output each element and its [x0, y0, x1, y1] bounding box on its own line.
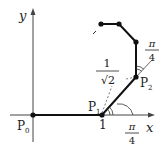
angle-top-numer: π — [148, 38, 156, 49]
y-axis-arrow-icon — [31, 8, 36, 15]
x-axis-label: x — [146, 120, 154, 135]
point-p2 — [133, 74, 138, 79]
angle-bottom-numer: π — [128, 121, 136, 132]
angle-arc-bottom — [117, 104, 133, 115]
segment-length-denom: √2 — [101, 74, 115, 87]
point-p5 — [98, 21, 103, 26]
continuation-dash — [93, 31, 96, 34]
tick-label-1: 1 — [99, 118, 107, 132]
label-p0: P0 — [17, 119, 30, 135]
point-p4 — [116, 21, 121, 26]
label-p1: P1 — [88, 100, 101, 116]
polyline-diagram: y x P0 P1 P2 1 1 √2 π 4 π 4 — [0, 0, 168, 153]
polyline-path — [33, 24, 136, 115]
point-p0 — [30, 112, 35, 117]
diagram: y x P0 P1 P2 1 1 √2 π 4 π 4 — [0, 0, 168, 153]
label-p2: P2 — [140, 76, 153, 92]
segment-length-numer: 1 — [104, 57, 111, 70]
point-p3 — [133, 39, 138, 44]
angle-arc — [107, 109, 110, 115]
x-axis-arrow-icon — [148, 113, 155, 118]
y-axis-label: y — [18, 8, 27, 23]
angle-top-denom: 4 — [149, 52, 155, 63]
angle-bottom-denom: 4 — [129, 135, 135, 146]
